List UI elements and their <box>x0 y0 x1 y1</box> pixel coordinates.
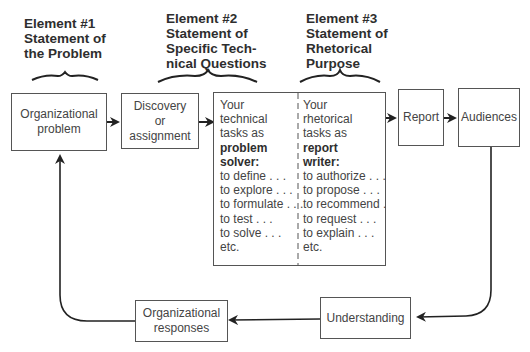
technical-tasks-column: Your technical tasks as problem solver: … <box>220 98 303 254</box>
rhetorical-tasks-column: Your rhetorical tasks as report writer: … <box>303 98 386 254</box>
box-audiences: Audiences <box>458 88 520 147</box>
box-organizational-responses: Organizational responses <box>135 300 228 342</box>
box-understanding: Understanding <box>320 297 411 339</box>
box-report: Report <box>398 89 444 146</box>
